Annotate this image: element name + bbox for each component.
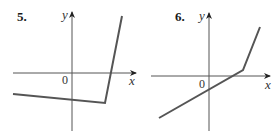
origin-label: 0 xyxy=(199,77,205,91)
figure-number: 5. xyxy=(17,9,27,24)
y-axis-label: y xyxy=(60,7,68,22)
figures-canvas: 5. y x 0 6. y x 0 xyxy=(0,0,278,135)
figure-number: 6. xyxy=(175,9,185,24)
figure-5: 5. y x 0 xyxy=(13,7,136,131)
x-axis-label: x xyxy=(128,73,135,88)
origin-label: 0 xyxy=(62,73,68,87)
graph-curve xyxy=(13,16,122,103)
y-axis-label: y xyxy=(197,8,205,23)
figure-6: 6. y x 0 xyxy=(151,8,271,131)
x-axis-label: x xyxy=(264,77,271,92)
